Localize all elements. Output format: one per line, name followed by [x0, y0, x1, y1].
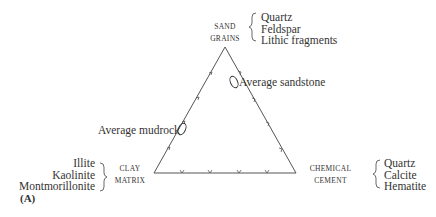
left-brace	[100, 163, 107, 191]
chemical-cement-label: CHEMICAL CEMENT	[303, 163, 358, 187]
sand-grains-label: SAND GRAINS	[200, 21, 250, 45]
cement-label-line1: CHEMICAL	[303, 163, 358, 175]
right-brace	[373, 160, 380, 188]
clay-label-line1: CLAY	[110, 163, 150, 175]
sand-component: Lithic fragments	[261, 35, 337, 47]
sand-components-list: Quartz Feldspar Lithic fragments	[261, 12, 337, 47]
clay-component: Montmorillonite	[0, 181, 95, 193]
clay-label-line2: MATRIX	[110, 175, 150, 187]
top-brace	[249, 13, 256, 41]
sand-component: Quartz	[261, 12, 337, 24]
average-sandstone-ellipse	[228, 75, 239, 89]
clay-matrix-label: CLAY MATRIX	[110, 163, 150, 187]
ternary-triangle	[154, 47, 296, 173]
figure-label: (A)	[20, 192, 35, 204]
cement-components-list: Quartz Calcite Hematite	[384, 158, 426, 193]
clay-component: Illite	[0, 158, 95, 170]
average-mudrock-label: Average mudrock	[98, 124, 180, 136]
sand-label-line2: GRAINS	[200, 33, 250, 45]
cement-component: Hematite	[384, 181, 426, 193]
average-sandstone-label: Average sandstone	[239, 76, 325, 88]
sand-label-line1: SAND	[200, 21, 250, 33]
clay-components-list: Illite Kaolinite Montmorillonite	[0, 158, 95, 193]
cement-label-line2: CEMENT	[303, 175, 358, 187]
cement-component: Quartz	[384, 158, 426, 170]
